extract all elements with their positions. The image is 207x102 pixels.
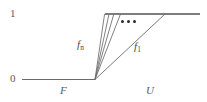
y-axis-label-one: 1 (10, 8, 16, 19)
curve-label-f1-subscript: 1 (137, 45, 141, 54)
figure-canvas: 1 0 F U fn f1 (0, 0, 207, 102)
y-axis-label-zero: 0 (10, 73, 16, 84)
ramp-line-f1 (95, 14, 165, 80)
curve-label-fn-subscript: n (80, 43, 84, 52)
curve-label-fn: fn (77, 39, 84, 50)
ramp-line-fn (95, 14, 105, 80)
region-label-f: F (60, 85, 67, 96)
ramp-line-fn-1 (95, 14, 109, 80)
ellipsis-dot (133, 20, 136, 23)
region-label-u: U (146, 85, 154, 96)
ellipsis-dot (127, 20, 130, 23)
ellipsis-dots-icon (121, 20, 136, 23)
curve-label-f1: f1 (134, 41, 141, 52)
plot-svg (0, 0, 207, 102)
ellipsis-dot (121, 20, 124, 23)
ramp-line-fn-2 (95, 14, 114, 80)
ramp-line-f2 (95, 14, 121, 80)
